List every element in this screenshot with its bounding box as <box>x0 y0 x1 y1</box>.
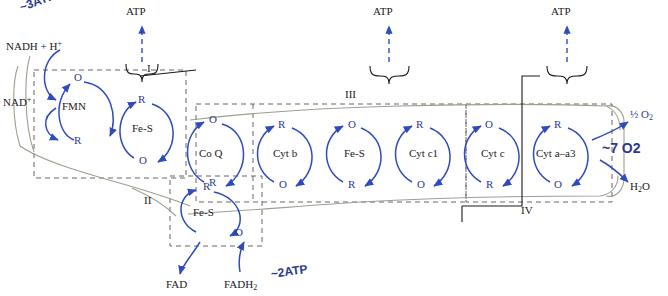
redox-cycle-arcs <box>44 50 628 274</box>
redox-r-5: R <box>348 178 355 190</box>
fadh2-label: FADH2 <box>224 278 257 294</box>
redox-o-8: O <box>554 178 562 190</box>
atp-arrows <box>142 26 567 62</box>
redox-r-9: R <box>203 180 210 192</box>
redox-o-1: O <box>74 71 82 83</box>
carrier-cytc: Cyt c <box>481 147 505 159</box>
redox-o-4: O <box>279 178 287 190</box>
carrier-cyt-a-a3: Cyt a–a3 <box>536 147 575 159</box>
redox-o-9: O <box>235 226 243 238</box>
annotation-o2: ~7 O2 <box>602 142 641 154</box>
carrier-coq: Co Q <box>199 147 223 159</box>
carrier-cytb: Cyt b <box>273 147 297 159</box>
oxygen-label: ½ O2 <box>630 108 653 124</box>
carrier-fes-i: Fe-S <box>132 122 153 134</box>
carrier-cytc1: Cyt c1 <box>409 147 438 159</box>
carrier-fes-iii: Fe-S <box>344 147 365 159</box>
redox-r-4: R <box>278 118 285 130</box>
carrier-fmn: FMN <box>62 100 86 112</box>
redox-o-2: O <box>139 154 147 166</box>
complex-label-iii: III <box>345 88 356 100</box>
bracket-marks <box>140 70 540 222</box>
etc-diagram: ATP ATP ATP I II III IV FMN Fe-S Co Q Cy… <box>0 0 668 296</box>
complex-label-ii: II <box>144 194 151 206</box>
dashed-boxes <box>34 70 612 246</box>
complex-label-i: I <box>147 62 151 74</box>
redox-r-2: R <box>138 93 145 105</box>
membrane-outline <box>14 56 624 216</box>
redox-r-6: R <box>416 118 423 130</box>
redox-r-8: R <box>554 118 561 130</box>
fad-label: FAD <box>166 278 187 290</box>
atp-label-3: ATP <box>551 5 571 17</box>
redox-o-5: O <box>348 118 356 130</box>
nadh-label: NADH + H+ <box>6 38 62 52</box>
redox-r-1: R <box>74 134 81 146</box>
braces <box>126 64 587 84</box>
nad-plus-label: NAD+ <box>3 94 31 108</box>
redox-o-6: O <box>417 178 425 190</box>
redox-o-7: O <box>485 118 493 130</box>
carrier-fes-ii: Fe-S <box>193 206 214 218</box>
atp-label-1: ATP <box>126 5 146 17</box>
redox-r-7: R <box>486 178 493 190</box>
complex-label-iv: IV <box>521 204 533 216</box>
water-label: H2O <box>630 180 650 196</box>
redox-o-3: O <box>209 113 217 125</box>
atp-label-2: ATP <box>373 5 393 17</box>
